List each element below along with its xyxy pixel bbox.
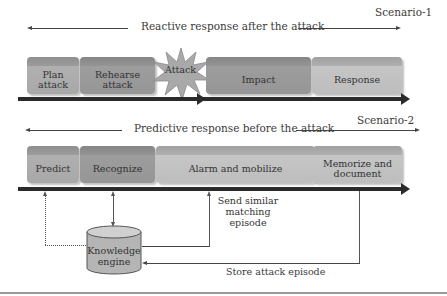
scenario-1-left-arrow-line <box>30 28 128 29</box>
stage-label: Recognize <box>93 164 143 174</box>
stage-memorize-and-document: Memorize anddocument <box>313 146 402 183</box>
store-connector-vertical <box>359 191 360 264</box>
store-annotation: Store attack episode <box>226 266 325 277</box>
stage-label: Alarm and mobilize <box>189 164 283 174</box>
scenario-1-right-arrow-line <box>298 28 396 29</box>
knowledge-engine-line: engine <box>98 256 131 267</box>
scenario-1-label: Scenario-1 <box>375 6 432 18</box>
stage-plan-attack: Planattack <box>27 57 79 94</box>
stage-impact: Impact <box>206 57 311 94</box>
stage-response: Response <box>312 57 402 94</box>
stage-alarm-and-mobilize: Alarm and mobilize <box>156 146 315 183</box>
arrow-up-icon <box>111 191 115 196</box>
knowledge-engine-label: Knowledgeengine <box>86 245 142 267</box>
knowledge-engine-line: Knowledge <box>87 245 141 256</box>
store-connector-horizontal <box>146 263 360 264</box>
recognize-connector <box>113 194 114 224</box>
scenario-1-caption: Reactive response after the attack <box>141 20 324 32</box>
stage-label: Impact <box>242 75 276 85</box>
arrow-up-icon <box>207 191 211 196</box>
stage-label: attack <box>38 79 68 90</box>
predict-dotted-horizontal <box>45 245 86 246</box>
arrow-left-icon <box>27 26 32 30</box>
send-connector-vertical <box>209 194 210 247</box>
predict-dotted-connector <box>45 194 46 245</box>
arrow-left-icon <box>142 261 147 265</box>
arrow-right-icon <box>396 26 401 30</box>
stage-attack-label: Attack <box>165 64 196 75</box>
scenario-2-right-arrow-line <box>296 130 415 131</box>
stage-label: document <box>334 168 382 179</box>
stage-label: attack <box>102 79 132 90</box>
scenario-1-timeline-a <box>18 97 198 101</box>
stage-label: Response <box>334 75 380 85</box>
bottom-divider <box>0 292 447 294</box>
scenario-2-caption: Predictive response before the attack <box>134 122 334 134</box>
send-connector-horizontal <box>142 246 210 247</box>
stage-recognize: Recognize <box>80 146 155 183</box>
stage-rehearse-attack: Rehearseattack <box>80 57 155 94</box>
scenario-2-label: Scenario-2 <box>357 114 414 126</box>
annotation-line: episode <box>229 217 266 228</box>
annotation-line: matching <box>225 206 270 217</box>
send-annotation: Send similarmatchingepisode <box>216 195 280 228</box>
stage-label: Predict <box>36 164 71 174</box>
arrow-up-icon <box>43 191 47 196</box>
arrow-right-icon <box>415 128 420 132</box>
arrow-down-icon <box>111 222 115 227</box>
stage-predict: Predict <box>27 146 79 183</box>
scenario-2-left-arrow-line <box>28 130 122 131</box>
scenario-1-timeline <box>176 97 402 101</box>
annotation-line: Send similar <box>218 195 279 206</box>
arrow-left-icon <box>25 128 30 132</box>
